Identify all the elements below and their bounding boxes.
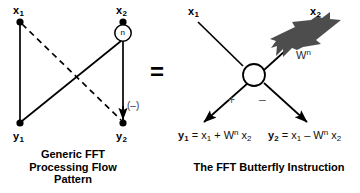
- label-y1-left: y1: [13, 131, 24, 144]
- butterfly-edge-x1: [198, 22, 243, 66]
- minus-sign-leg: –: [259, 94, 266, 106]
- label-x2-left: x2: [116, 5, 127, 18]
- formula-y1: y1 = x1 + Wn x2: [178, 129, 252, 143]
- left-panel-caption: Generic FFT Processing Flow Pattern: [2, 148, 144, 186]
- fft-butterfly-figure: x1 x2 n (–) y1 y2 Generic FFT Processing…: [0, 0, 360, 193]
- plus-sign-leg: +: [228, 94, 235, 106]
- right-panel-caption: The FFT Butterfly Instruction: [178, 161, 360, 174]
- edge-x1-to-y2-dashed: [22, 24, 121, 120]
- butterfly-edge-y1: [204, 83, 248, 122]
- twiddle-factor-label: Wn: [296, 49, 311, 61]
- label-x1-right: x1: [188, 6, 199, 19]
- butterfly-edge-y2: [264, 83, 307, 122]
- node-y1-dot: [16, 119, 23, 126]
- twiddle-node-label: n: [121, 29, 125, 37]
- formula-y2: y2 = x1 – Wn x2: [268, 129, 341, 143]
- equals-symbol: =: [150, 60, 164, 84]
- edge-x2-to-y1: [22, 41, 121, 121]
- label-y2-left: y2: [116, 131, 127, 144]
- node-x1-dot: [16, 18, 23, 25]
- label-x1-left: x1: [13, 5, 24, 18]
- label-x2-right: x2: [310, 6, 321, 19]
- node-y2-dot: [119, 119, 126, 126]
- negative-sign-annotation: (–): [127, 101, 139, 111]
- butterfly-center-node: [243, 64, 265, 86]
